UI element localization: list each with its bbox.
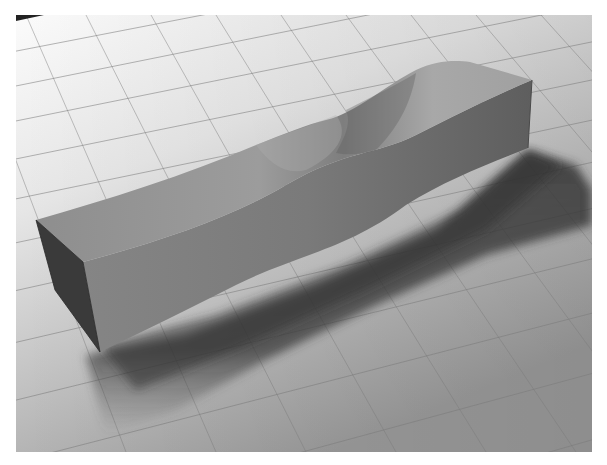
bench-scene [16,15,592,452]
render-image [16,15,592,452]
cropped-caption [0,0,607,14]
